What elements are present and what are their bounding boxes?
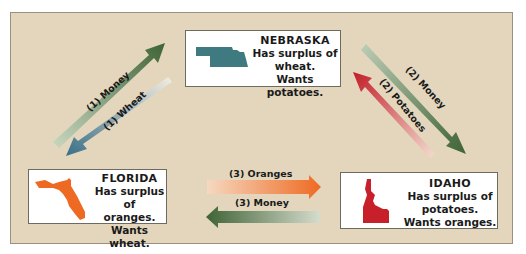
idaho-surplus-line: Has surplus of (401, 190, 499, 203)
idaho-name: IDAHO (401, 177, 499, 190)
nebraska-map-icon (196, 47, 248, 69)
idaho-box: IDAHO Has surplus of potatoes. Wants ora… (340, 172, 498, 229)
florida-name: FLORIDA (91, 172, 168, 185)
nebraska-wants: Wants potatoes. (248, 73, 342, 99)
nebraska-name: NEBRASKA (248, 34, 342, 47)
arrow-3-oranges: (3) Oranges (207, 168, 321, 199)
label-3-money: (3) Money (235, 197, 290, 208)
idaho-map-icon (363, 179, 391, 223)
florida-wants: Wants wheat. (91, 224, 168, 250)
idaho-surplus-item: potatoes. (401, 203, 499, 216)
idaho-wants: Wants oranges. (401, 216, 499, 229)
arrow-3-money: (3) Money (206, 197, 320, 228)
nebraska-surplus-item: wheat. (248, 60, 342, 73)
florida-surplus-line: Has surplus of (91, 185, 168, 211)
florida-surplus-item: oranges. (91, 211, 168, 224)
label-3-oranges: (3) Oranges (229, 168, 293, 179)
florida-box: FLORIDA Has surplus of oranges. Wants wh… (28, 169, 167, 224)
nebraska-box: NEBRASKA Has surplus of wheat. Wants pot… (185, 30, 341, 87)
nebraska-surplus-line: Has surplus of (248, 47, 342, 60)
florida-map-icon (35, 176, 87, 220)
